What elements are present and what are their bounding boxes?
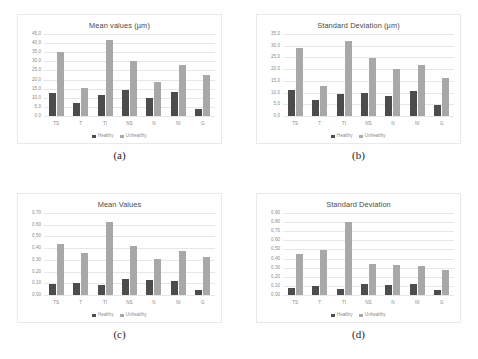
x-axis-tick-label: TI <box>332 122 356 127</box>
y-axis-tick-label: 0,20 <box>271 274 280 279</box>
bar-healthy <box>171 281 178 295</box>
bar-healthy <box>195 290 202 295</box>
x-axis-tick-label: G <box>191 122 215 127</box>
legend-swatch-healthy-icon <box>92 135 95 138</box>
bar-unhealthy <box>179 251 186 296</box>
bar-group <box>93 34 117 116</box>
bar-group <box>191 213 215 295</box>
bar-group <box>44 34 68 116</box>
chart-a-plot: 45,040,035,030,025,020,015,010,05,00,0 <box>44 34 215 116</box>
bar-healthy <box>410 284 417 295</box>
bar-healthy <box>288 288 295 295</box>
gridline: 0,00 <box>283 295 454 296</box>
bar-series-container <box>44 213 215 295</box>
caption-d: (d) <box>352 328 365 340</box>
x-axis-tick-label: G <box>430 122 454 127</box>
chart-a: Mean values (µm) 45,040,035,030,025,020,… <box>17 14 222 144</box>
legend-label-unhealthy: Unhealthy <box>126 134 147 139</box>
y-axis-tick-label: 0,60 <box>32 222 41 227</box>
bar-group <box>381 213 405 295</box>
y-axis-tick-label: 25,0 <box>271 55 280 60</box>
legend-swatch-healthy-icon <box>331 135 334 138</box>
bar-group <box>283 213 307 295</box>
x-axis-tick-label: TS <box>44 301 68 306</box>
caption-c: (c) <box>113 328 125 340</box>
bar-group <box>283 34 307 116</box>
figure-page: Mean values (µm) 45,040,035,030,025,020,… <box>0 0 478 359</box>
legend-label-healthy: Healthy <box>337 134 353 139</box>
bar-healthy <box>434 290 441 295</box>
legend-item-unhealthy: Unhealthy <box>120 313 146 318</box>
x-axis-tick-label: N <box>142 122 166 127</box>
x-axis-tick-label: N <box>381 122 405 127</box>
bar-healthy <box>73 103 80 116</box>
subfigure-c: Mean Values 0,700,600,500,400,300,200,10… <box>0 179 239 359</box>
legend-item-unhealthy: Unhealthy <box>359 134 385 139</box>
chart-b-xlabels: TSTTINSNNIG <box>283 122 454 127</box>
y-axis-tick-label: 0,60 <box>271 238 280 243</box>
bar-group <box>166 34 190 116</box>
y-axis-tick-label: 15,0 <box>32 86 41 91</box>
bar-group <box>68 213 92 295</box>
chart-c-plot: 0,700,600,500,400,300,200,100,00 <box>44 213 215 295</box>
x-axis-tick-label: NS <box>117 122 141 127</box>
bar-unhealthy <box>106 222 113 295</box>
bar-unhealthy <box>393 69 400 116</box>
bar-unhealthy <box>130 246 137 295</box>
chart-c-xlabels: TSTTINSNNIG <box>44 301 215 306</box>
subfigure-a: Mean values (µm) 45,040,035,030,025,020,… <box>0 0 239 179</box>
chart-d-plot: 0,900,800,700,600,500,400,300,200,100,00 <box>283 213 454 295</box>
bar-healthy <box>146 98 153 116</box>
bar-healthy <box>98 95 105 116</box>
chart-d-xlabels: TSTTINSNNIG <box>283 301 454 306</box>
bar-series-container <box>44 34 215 116</box>
bar-series-container <box>283 34 454 116</box>
bar-group <box>142 213 166 295</box>
legend-label-healthy: Healthy <box>337 313 353 318</box>
bar-unhealthy <box>345 222 352 295</box>
y-axis-tick-label: 0,40 <box>32 246 41 251</box>
bar-group <box>405 213 429 295</box>
bar-group <box>307 213 331 295</box>
bar-group <box>356 213 380 295</box>
bar-group <box>93 213 117 295</box>
caption-b: (b) <box>352 149 365 161</box>
bar-group <box>307 34 331 116</box>
bar-unhealthy <box>393 265 400 295</box>
bar-unhealthy <box>369 264 376 295</box>
caption-a: (a) <box>113 149 125 161</box>
bar-healthy <box>122 279 129 295</box>
chart-c: Mean Values 0,700,600,500,400,300,200,10… <box>17 193 222 323</box>
y-axis-tick-label: 0,70 <box>271 229 280 234</box>
x-axis-tick-label: N <box>142 301 166 306</box>
bar-unhealthy <box>203 75 210 116</box>
chart-c-title: Mean Values <box>18 200 221 209</box>
bar-unhealthy <box>320 250 327 295</box>
x-axis-tick-label: NI <box>405 301 429 306</box>
chart-d-legend: Healthy Unhealthy <box>257 313 460 318</box>
chart-d: Standard Deviation 0,900,800,700,600,500… <box>256 193 461 323</box>
subfigure-d: Standard Deviation 0,900,800,700,600,500… <box>239 179 478 359</box>
bar-healthy <box>434 105 441 116</box>
chart-a-xlabels: TSTTINSNNIG <box>44 122 215 127</box>
subfigure-b: Standard Deviation (µm) 35,030,025,020,0… <box>239 0 478 179</box>
x-axis-tick-label: TI <box>332 301 356 306</box>
bar-unhealthy <box>296 254 303 295</box>
y-axis-tick-label: 30,0 <box>271 43 280 48</box>
bar-group <box>44 213 68 295</box>
bar-group <box>332 34 356 116</box>
bar-group <box>405 34 429 116</box>
legend-swatch-healthy-icon <box>92 314 95 317</box>
gridline: 0,0 <box>44 116 215 117</box>
y-axis-tick-label: 0,30 <box>32 258 41 263</box>
y-axis-tick-label: 10,0 <box>32 95 41 100</box>
chart-c-legend: Healthy Unhealthy <box>18 313 221 318</box>
y-axis-tick-label: 0,90 <box>271 211 280 216</box>
chart-b-plot: 35,030,025,020,015,010,05,00,0 <box>283 34 454 116</box>
legend-item-healthy: Healthy <box>331 134 352 139</box>
y-axis-tick-label: 45,0 <box>32 32 41 37</box>
legend-swatch-unhealthy-icon <box>359 135 362 138</box>
x-axis-tick-label: NI <box>166 301 190 306</box>
y-axis-tick-label: 25,0 <box>32 68 41 73</box>
y-axis-tick-label: 5,0 <box>274 102 280 107</box>
